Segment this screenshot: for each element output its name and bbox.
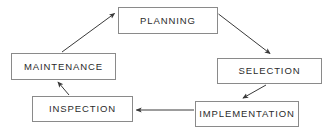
node-planning[interactable]: PLANNING xyxy=(118,7,218,34)
node-implementation-label: IMPLEMENTATION xyxy=(199,109,295,119)
node-implementation[interactable]: IMPLEMENTATION xyxy=(195,101,299,127)
node-inspection[interactable]: INSPECTION xyxy=(32,96,133,122)
node-inspection-label: INSPECTION xyxy=(49,104,116,114)
node-selection[interactable]: SELECTION xyxy=(217,58,322,84)
arrow-selection-to-implementation xyxy=(243,85,266,98)
arrow-planning-to-selection xyxy=(219,14,271,54)
cycle-diagram: PLANNING SELECTION IMPLEMENTATION INSPEC… xyxy=(0,0,331,132)
node-selection-label: SELECTION xyxy=(239,66,301,76)
arrow-maintenance-to-planning xyxy=(62,14,115,53)
node-maintenance[interactable]: MAINTENANCE xyxy=(11,53,116,80)
node-planning-label: PLANNING xyxy=(140,16,196,26)
node-maintenance-label: MAINTENANCE xyxy=(24,62,103,72)
arrow-inspection-to-maintenance xyxy=(58,82,69,95)
